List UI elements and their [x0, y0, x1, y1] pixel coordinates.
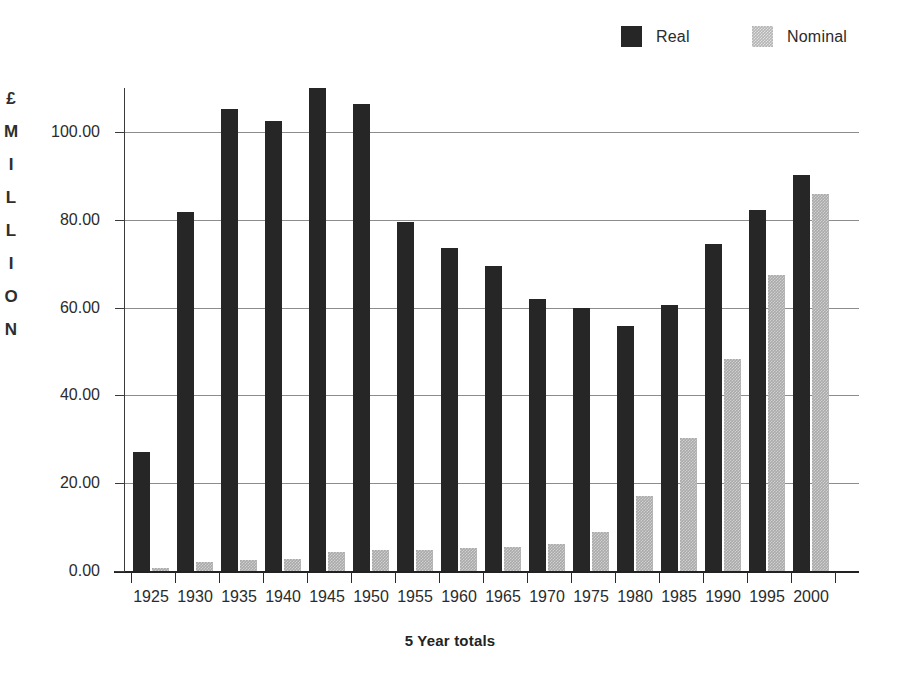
legend-label-real: Real [656, 28, 690, 46]
bar-nominal [768, 275, 785, 571]
x-axis-tick-mark [747, 572, 748, 583]
bar-group [573, 88, 609, 571]
bar-group [441, 88, 477, 571]
bar-real [397, 222, 414, 571]
bar-real [705, 244, 722, 571]
bar-nominal [240, 560, 257, 571]
bar-group [265, 88, 301, 571]
y-axis-tick-label: 20.00 [20, 474, 100, 492]
x-axis-tick-mark [703, 572, 704, 583]
bar-nominal [460, 548, 477, 571]
y-axis-tick-label: 40.00 [20, 386, 100, 404]
x-axis-tick-mark [659, 572, 660, 583]
y-axis-tick-mark [115, 308, 125, 309]
x-axis-tick-mark [527, 572, 528, 583]
bar-real [617, 326, 634, 571]
y-axis-tick-label: 60.00 [20, 299, 100, 317]
y-axis-title-letter: N [0, 313, 22, 346]
legend-label-nominal: Nominal [787, 28, 847, 46]
bar-group [749, 88, 785, 571]
bar-nominal [636, 496, 653, 571]
bar-group [529, 88, 565, 571]
chart-legend: Real Nominal [0, 16, 900, 60]
y-axis-tick-mark [115, 395, 125, 396]
legend-entry-real: Real [621, 26, 690, 47]
x-axis-tick-mark [615, 572, 616, 583]
bar-real [441, 248, 458, 571]
bar-nominal [680, 438, 697, 571]
bar-group [221, 88, 257, 571]
legend-swatch-nominal-icon [752, 26, 773, 47]
bar-nominal [196, 562, 213, 571]
legend-entry-nominal: Nominal [752, 26, 847, 47]
y-axis-title-letter: I [0, 247, 22, 280]
bar-group [177, 88, 213, 571]
y-axis-title-letter: I [0, 148, 22, 181]
bar-group [705, 88, 741, 571]
bar-nominal [152, 568, 169, 572]
bar-real [265, 121, 282, 571]
bar-group [397, 88, 433, 571]
legend-swatch-real-icon [621, 26, 642, 47]
bar-real [793, 175, 810, 571]
y-axis-title-letter: L [0, 181, 22, 214]
bar-real [749, 210, 766, 571]
bar-group [133, 88, 169, 571]
bar-nominal [328, 552, 345, 571]
bar-group [485, 88, 521, 571]
bar-group [309, 88, 345, 571]
y-axis-title-letter: O [0, 280, 22, 313]
y-axis-line [124, 88, 125, 571]
y-axis-tick-label: 100.00 [20, 123, 100, 141]
bar-nominal [548, 544, 565, 571]
bar-real [309, 88, 326, 571]
bar-real [133, 452, 150, 571]
x-axis-tick-mark [791, 572, 792, 583]
bar-real [177, 212, 194, 571]
bar-nominal [592, 532, 609, 571]
x-axis-tick-label: 2000 [781, 588, 841, 606]
x-axis-tick-mark [131, 572, 132, 583]
x-axis-tick-mark [219, 572, 220, 583]
bar-real [485, 266, 502, 571]
y-axis-title-letter: M [0, 115, 22, 148]
y-axis-title-letter: L [0, 214, 22, 247]
x-axis-tick-mark [571, 572, 572, 583]
bar-nominal [724, 359, 741, 571]
bar-group [661, 88, 697, 571]
y-axis-tick-mark [115, 220, 125, 221]
x-axis-tick-mark [263, 572, 264, 583]
y-axis-tick-label: 80.00 [20, 211, 100, 229]
y-axis-tick-label: 0.00 [20, 562, 100, 580]
bar-real [221, 109, 238, 571]
y-axis-tick-mark [115, 483, 125, 484]
bar-nominal [284, 559, 301, 571]
y-axis-title: £MILLION [0, 82, 22, 346]
bar-real [661, 305, 678, 571]
x-axis-title: 5 Year totals [0, 632, 900, 649]
bar-real [573, 308, 590, 571]
x-axis-tick-mark [307, 572, 308, 583]
bar-nominal [372, 550, 389, 571]
chart-plot-area: 0.0020.0040.0060.0080.00100.00 192519301… [124, 88, 859, 571]
y-axis-tick-mark [115, 571, 125, 572]
bar-group [617, 88, 653, 571]
y-axis-title-letter: £ [0, 82, 22, 115]
bar-nominal [416, 550, 433, 571]
bar-group [793, 88, 829, 571]
x-axis-tick-mark [483, 572, 484, 583]
x-axis-tick-mark [395, 572, 396, 583]
bar-nominal [812, 194, 829, 571]
bar-real [353, 104, 370, 571]
x-axis-tick-mark [351, 572, 352, 583]
x-axis-tick-mark [835, 572, 836, 583]
x-axis-tick-mark [175, 572, 176, 583]
bar-nominal [504, 547, 521, 571]
bar-group [353, 88, 389, 571]
y-axis-tick-mark [115, 132, 125, 133]
bar-real [529, 299, 546, 571]
x-axis-tick-mark [439, 572, 440, 583]
